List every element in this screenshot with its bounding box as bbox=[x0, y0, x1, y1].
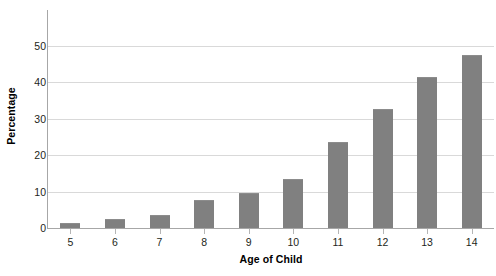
y-axis-tick-label: 30 bbox=[22, 113, 46, 125]
bar-chart: Percentage 01020304050 Age of Child 5678… bbox=[0, 0, 496, 276]
x-axis-tick-label: 11 bbox=[318, 236, 358, 248]
x-axis-tick bbox=[293, 229, 294, 234]
y-axis-tick-label: 20 bbox=[22, 149, 46, 161]
y-axis-tick-label: 50 bbox=[22, 40, 46, 52]
x-axis-tick bbox=[115, 229, 116, 234]
y-axis-tick-label: 10 bbox=[22, 186, 46, 198]
x-axis-tick bbox=[70, 229, 71, 234]
bar[interactable] bbox=[373, 109, 393, 228]
x-axis-tick bbox=[472, 229, 473, 234]
y-axis-title-label: Percentage bbox=[5, 87, 17, 145]
bar[interactable] bbox=[462, 55, 482, 228]
x-axis-title: Age of Child bbox=[48, 253, 494, 265]
y-axis-tick-labels: 01020304050 bbox=[22, 0, 46, 240]
x-axis-tick-label: 9 bbox=[229, 236, 269, 248]
bar[interactable] bbox=[417, 77, 437, 228]
x-axis-tick bbox=[249, 229, 250, 234]
x-axis-tick-label: 14 bbox=[452, 236, 492, 248]
x-axis-tick bbox=[383, 229, 384, 234]
y-axis-tick-label: 0 bbox=[22, 222, 46, 234]
bar[interactable] bbox=[105, 219, 125, 228]
bar[interactable] bbox=[194, 200, 214, 228]
bar[interactable] bbox=[150, 215, 170, 228]
x-axis-tick bbox=[160, 229, 161, 234]
plot-area bbox=[48, 10, 494, 228]
x-axis-tick-label: 12 bbox=[363, 236, 403, 248]
x-axis-tick-label: 6 bbox=[95, 236, 135, 248]
bar[interactable] bbox=[60, 223, 80, 228]
x-axis-tick-label: 8 bbox=[184, 236, 224, 248]
x-axis-tick bbox=[427, 229, 428, 234]
y-axis-tick-label: 40 bbox=[22, 76, 46, 88]
x-axis-tick bbox=[338, 229, 339, 234]
x-axis-tick-label: 13 bbox=[407, 236, 447, 248]
gridline bbox=[48, 46, 494, 47]
y-axis-title: Percentage bbox=[0, 0, 22, 232]
bar[interactable] bbox=[283, 179, 303, 229]
x-axis-tick-label: 7 bbox=[140, 236, 180, 248]
x-axis-tick bbox=[204, 229, 205, 234]
bar[interactable] bbox=[328, 142, 348, 228]
x-axis-tick-label: 5 bbox=[50, 236, 90, 248]
bar[interactable] bbox=[239, 193, 259, 228]
x-axis-tick-label: 10 bbox=[273, 236, 313, 248]
